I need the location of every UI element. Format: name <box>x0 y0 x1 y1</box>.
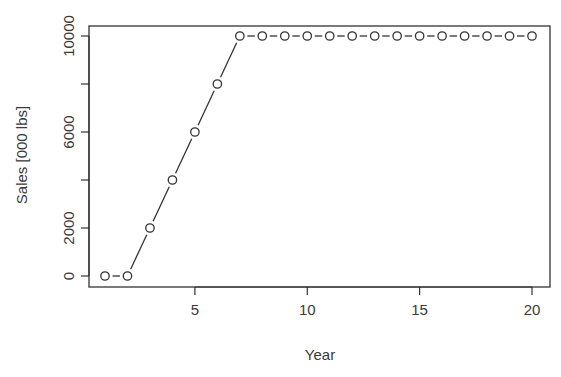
data-point-marker <box>348 32 356 40</box>
data-point-marker <box>393 32 401 40</box>
data-point-marker <box>415 32 423 40</box>
data-point-marker <box>326 32 334 40</box>
data-point-marker <box>281 32 289 40</box>
data-point-marker <box>258 32 266 40</box>
data-point-marker <box>483 32 491 40</box>
x-tick-label: 10 <box>299 301 316 318</box>
sales-chart: 02000600010000 5101520 Sales [000 lbs] Y… <box>0 0 561 377</box>
data-point-marker <box>236 32 244 40</box>
plot-frame <box>89 26 550 287</box>
data-point-marker <box>168 176 176 184</box>
data-point-marker <box>505 32 513 40</box>
x-tick-label: 5 <box>191 301 199 318</box>
series-segment <box>131 235 147 269</box>
data-point-marker <box>101 272 109 280</box>
x-tick-label: 20 <box>524 301 541 318</box>
data-point-marker <box>370 32 378 40</box>
y-axis-label: Sales [000 lbs] <box>13 106 30 204</box>
y-tick-label: 10000 <box>60 15 77 57</box>
data-point-marker <box>528 32 536 40</box>
y-tick-label: 6000 <box>60 115 77 148</box>
y-axis: 02000600010000 <box>60 15 89 280</box>
data-point-marker <box>123 272 131 280</box>
series-segment <box>176 139 192 173</box>
data-point-marker <box>191 128 199 136</box>
series-segment <box>221 43 237 77</box>
data-series <box>101 32 536 280</box>
data-point-marker <box>213 80 221 88</box>
series-segment <box>198 91 214 125</box>
data-point-marker <box>146 224 154 232</box>
data-point-marker <box>438 32 446 40</box>
data-point-marker <box>303 32 311 40</box>
series-segment <box>153 187 169 221</box>
data-point-marker <box>460 32 468 40</box>
x-tick-label: 15 <box>411 301 428 318</box>
y-tick-label: 0 <box>60 272 77 280</box>
y-tick-label: 2000 <box>60 211 77 244</box>
x-axis: 5101520 <box>191 287 541 318</box>
x-axis-label: Year <box>305 346 335 363</box>
